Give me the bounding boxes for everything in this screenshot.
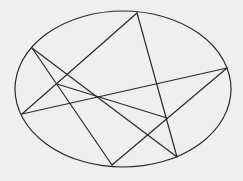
chord-BF: [32, 48, 177, 157]
chord-GH: [57, 84, 167, 118]
diagram-canvas: [0, 0, 243, 181]
ellipse-chords-figure: [0, 0, 243, 181]
ellipse: [15, 11, 231, 167]
chord-BE: [32, 48, 112, 165]
chords: [22, 13, 227, 165]
chord-CE: [112, 68, 227, 165]
chord-AF: [137, 13, 177, 157]
chord-AD: [22, 13, 137, 114]
chord-CD: [22, 68, 227, 114]
